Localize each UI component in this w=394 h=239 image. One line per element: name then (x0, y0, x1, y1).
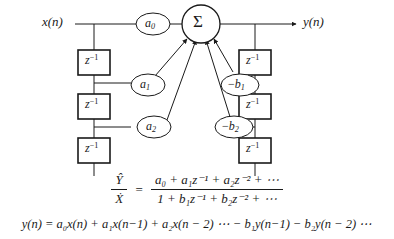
delay-label-left-3: z−1 (85, 142, 98, 154)
coefficient-label-b1: −b1 (228, 78, 245, 92)
lhs-denominator: Ẋ (111, 190, 127, 207)
equals-sign: = (130, 182, 147, 198)
delay-exponent: −1 (90, 141, 99, 150)
coefficient-sub: 1 (146, 83, 150, 92)
delay-label-left-2: z−1 (85, 98, 98, 110)
coefficient-label-a0: a0 (145, 17, 155, 31)
delay-exponent: −1 (90, 53, 99, 62)
rhs-numerator: a₀ + a₁z⁻¹ + a₂z⁻² + ⋯ (151, 172, 283, 190)
a2-to-sum-line (167, 40, 196, 120)
coefficient-sub: 2 (152, 125, 156, 134)
delay-exponent: −1 (251, 97, 260, 106)
b1-to-sum-line (214, 39, 233, 72)
rhs-denominator: 1 + b₁z⁻¹ + b₂z⁻² + ⋯ (151, 190, 283, 207)
delay-exponent: −1 (90, 97, 99, 106)
transfer-function-equation: Ŷ Ẋ = a₀ + a₁z⁻¹ + a₂z⁻² + ⋯ 1 + b₁z⁻¹ +… (0, 172, 394, 207)
coefficient-sub: 0 (151, 22, 155, 31)
coefficient-sign: − (228, 77, 235, 91)
delay-label-right-1: z−1 (246, 54, 259, 66)
transfer-function-rhs: a₀ + a₁z⁻¹ + a₂z⁻² + ⋯ 1 + b₁z⁻¹ + b₂z⁻²… (151, 172, 283, 207)
coefficient-label-a1: a1 (140, 78, 150, 92)
a1-to-sum-line (155, 39, 187, 76)
delay-label-right-2: z−1 (246, 98, 259, 110)
input-label: x(n) (42, 15, 63, 28)
coefficient-sub: 2 (235, 125, 239, 134)
delay-exponent: −1 (251, 53, 260, 62)
output-label: y(n) (303, 15, 324, 28)
coefficient-sub: 1 (241, 83, 245, 92)
delay-label-right-3: z−1 (246, 142, 259, 154)
coefficient-label-b2: −b2 (222, 120, 239, 134)
coefficient-label-a2: a2 (146, 120, 156, 134)
delay-label-left-1: z−1 (85, 54, 98, 66)
lhs-numerator: Ŷ (111, 172, 127, 190)
summation-symbol: Σ (193, 13, 203, 30)
coefficient-sign: − (222, 119, 229, 133)
difference-equation: y(n) = a₀x(n) + a₁x(n−1) + a₂x(n − 2) ⋯ … (0, 216, 394, 232)
delay-exponent: −1 (251, 141, 260, 150)
filter-diagram-figure: x(n) y(n) Σ z−1 z−1 z−1 z−1 z−1 z−1 a0 a… (0, 0, 394, 239)
transfer-function-lhs: Ŷ Ẋ (111, 172, 127, 207)
